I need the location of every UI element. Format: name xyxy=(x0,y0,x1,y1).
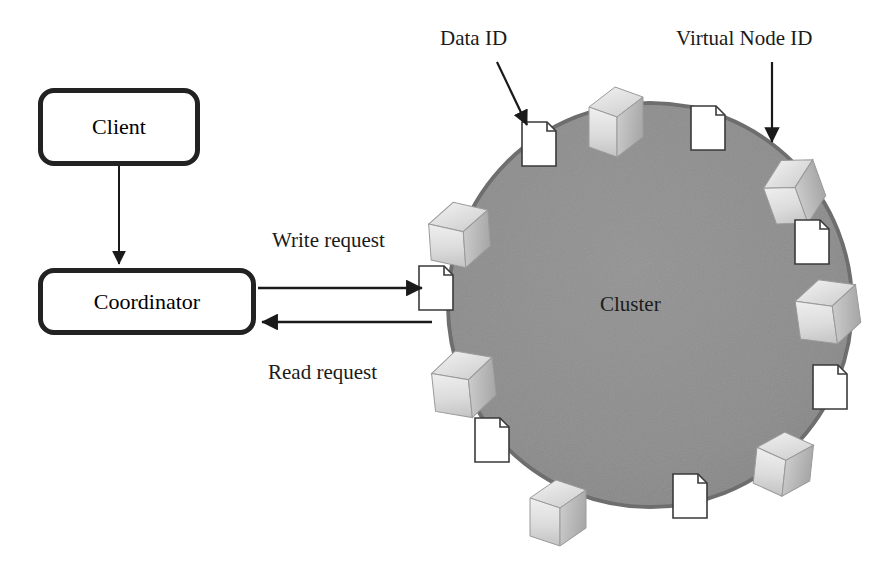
virtual-node-id-label: Virtual Node ID xyxy=(676,28,812,49)
data-id-pointer-arrow xyxy=(497,62,527,125)
coordinator-box[interactable]: Coordinator xyxy=(38,268,256,335)
read-request-label: Read request xyxy=(268,362,377,383)
client-box[interactable]: Client xyxy=(38,88,200,166)
cluster-label: Cluster xyxy=(600,294,661,315)
data-id-label: Data ID xyxy=(440,28,507,49)
client-box-label: Client xyxy=(92,114,146,140)
diagram-canvas: Client Coordinator Data ID Virtual Node … xyxy=(0,0,875,561)
document-page-icon xyxy=(795,220,829,264)
document-page-icon xyxy=(691,106,725,150)
write-request-label: Write request xyxy=(272,230,385,251)
document-page-icon xyxy=(522,122,556,166)
document-page-icon xyxy=(813,365,847,409)
document-page-icon xyxy=(673,474,707,518)
coordinator-box-label: Coordinator xyxy=(94,289,200,315)
document-page-icon xyxy=(475,418,509,462)
document-page-icon xyxy=(419,266,453,310)
server-box-icon xyxy=(530,480,586,546)
